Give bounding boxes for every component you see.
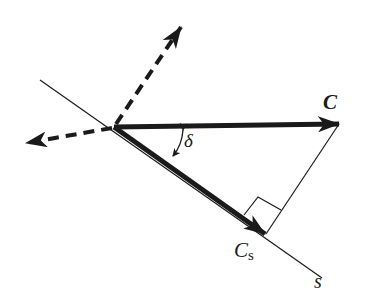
angle-delta-arc (173, 130, 183, 156)
label-vector-cs: Cs (234, 238, 254, 264)
dashed-arrow-up (116, 27, 181, 124)
diagram-canvas: C Cs s δ (0, 0, 376, 301)
projection-line (266, 124, 339, 234)
label-cs-main: C (234, 238, 248, 262)
label-vector-c: C (323, 90, 337, 115)
label-angle-delta: δ (184, 130, 193, 152)
label-axis-s: s (314, 270, 322, 293)
axis-s-line (40, 80, 322, 278)
vector-c-arrow (114, 124, 339, 127)
label-cs-subscript: s (248, 247, 254, 263)
dashed-arrow-left (26, 128, 112, 143)
right-angle-marker (244, 197, 281, 215)
